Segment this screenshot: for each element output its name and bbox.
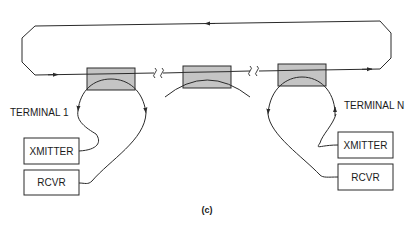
terminal-1-rcvr-label: RCVR <box>37 177 65 188</box>
terminal-1: TERMINAL 1 XMITTER RCVR <box>10 107 79 195</box>
coupler-middle <box>183 66 231 88</box>
terminal-n: TERMINAL N XMITTER RCVR <box>338 100 404 190</box>
coupler-n <box>278 64 326 86</box>
terminal-1-label: TERMINAL 1 <box>10 107 69 118</box>
terminal-n-label: TERMINAL N <box>344 100 404 111</box>
terminal-1-loop <box>78 79 146 184</box>
terminal-n-rcvr-label: RCVR <box>351 172 379 183</box>
break-mark-4 <box>256 66 259 76</box>
terminal-1-xmitter-label: XMITTER <box>30 146 74 157</box>
figure-caption: (c) <box>202 205 213 215</box>
terminal-n-loop <box>268 77 338 177</box>
bus-right-end <box>380 21 391 69</box>
couplers <box>87 64 326 90</box>
bus-network-diagram: TERMINAL 1 XMITTER RCVR TERMINAL N XMITT… <box>0 0 414 227</box>
terminal-n-xmitter-label: XMITTER <box>344 140 388 151</box>
bus-left-end <box>22 26 35 75</box>
